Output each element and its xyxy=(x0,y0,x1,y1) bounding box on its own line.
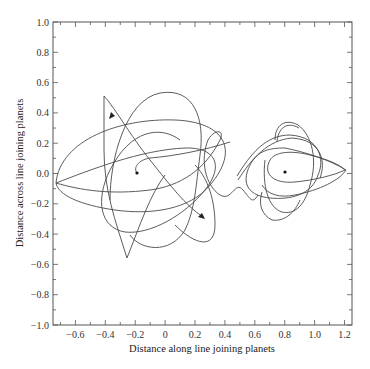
y-tick-label: 0.4 xyxy=(37,107,50,118)
trajectory xyxy=(56,92,346,258)
x-tick-label: 0.2 xyxy=(189,329,202,340)
planet-1-marker xyxy=(135,171,138,174)
planet-2-marker xyxy=(283,170,286,173)
y-tick-label: −0.4 xyxy=(31,229,49,240)
x-tick-label: 0.6 xyxy=(249,329,262,340)
chart: −0.6−0.4−0.200.20.40.60.81.01.2−1.0−0.8−… xyxy=(0,0,370,369)
x-tick-label: 0.8 xyxy=(278,329,291,340)
y-tick-label: 0.8 xyxy=(37,47,50,58)
y-tick-label: 0.2 xyxy=(37,138,50,149)
x-tick-label: 1.2 xyxy=(338,329,351,340)
y-tick-label: −0.8 xyxy=(31,289,49,300)
x-tick-label: 1.0 xyxy=(308,329,321,340)
x-tick-label: −0.6 xyxy=(66,329,84,340)
y-tick-label: 0.0 xyxy=(37,168,50,179)
x-tick-label: −0.2 xyxy=(126,329,144,340)
x-tick-label: 0.4 xyxy=(219,329,232,340)
y-tick-label: 0.6 xyxy=(37,77,50,88)
y-axis-title: Distance across line joining planets xyxy=(14,99,25,248)
axis-tick-labels: −0.6−0.4−0.200.20.40.60.81.01.2−1.0−0.8−… xyxy=(31,17,351,341)
x-axis-title: Distance along line joining planets xyxy=(129,343,275,354)
x-tick-label: −0.4 xyxy=(96,329,114,340)
axis-ticks xyxy=(53,22,352,325)
x-tick-label: 0 xyxy=(163,329,168,340)
y-tick-label: −1.0 xyxy=(31,320,49,331)
arrowhead-icon xyxy=(109,112,115,119)
y-tick-label: −0.2 xyxy=(31,198,49,209)
y-tick-label: −0.6 xyxy=(31,259,49,270)
y-tick-label: 1.0 xyxy=(37,17,50,28)
plot-frame xyxy=(53,22,352,325)
